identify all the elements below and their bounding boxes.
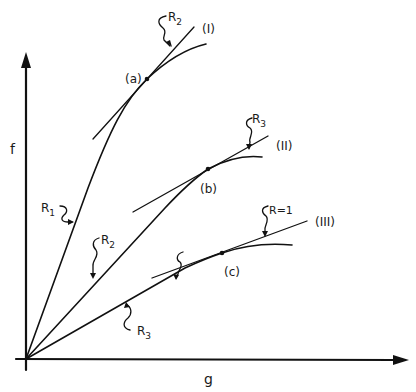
y-axis <box>21 52 31 370</box>
ray-R1-annotation: R1 <box>41 201 74 225</box>
tangent-a-label: R2 <box>168 10 182 27</box>
tangent-c-label: R=1 <box>269 204 293 217</box>
x-axis-label: g <box>204 371 213 387</box>
tangent-ratio-diagram: f g (a) (I) R2 (b) (II) R3 (c) (III) R=1 <box>0 0 416 392</box>
tangent-line-a <box>93 27 194 139</box>
y-axis-arrow-icon <box>21 52 31 68</box>
curve-II-label: (II) <box>276 139 292 153</box>
ray-R2-annotation: R2 <box>90 233 115 279</box>
curve-III-label: (III) <box>315 215 335 229</box>
curve-III: (c) (III) R=1 <box>26 204 335 359</box>
curve-I-label: (I) <box>202 22 215 36</box>
ray-R3-annotation: R3 <box>124 302 151 341</box>
pointer-arrow-icon <box>173 274 179 280</box>
svg-text:R1: R1 <box>41 201 55 218</box>
curve-I: (a) (I) R2 <box>26 10 215 359</box>
svg-text:R2: R2 <box>101 233 115 250</box>
point-b <box>206 167 211 172</box>
point-c-label: (c) <box>224 265 240 279</box>
curve-II: (b) (II) R3 <box>26 112 292 359</box>
pointer-arrow-icon <box>68 219 74 225</box>
point-a-label: (a) <box>125 72 142 86</box>
squiggle-unlabeled <box>176 252 183 278</box>
squiggle-R1-top <box>263 206 269 235</box>
point-b-label: (b) <box>200 182 217 196</box>
point-a <box>145 77 150 82</box>
svg-text:R3: R3 <box>137 324 151 341</box>
x-axis <box>16 355 409 365</box>
x-axis-arrow-icon <box>393 355 409 365</box>
pointer-arrow-icon <box>90 273 96 279</box>
point-c <box>220 251 225 256</box>
tangent-b-label: R3 <box>252 112 266 129</box>
pointer-arrow-icon <box>246 144 252 150</box>
y-axis-label: f <box>10 141 16 157</box>
